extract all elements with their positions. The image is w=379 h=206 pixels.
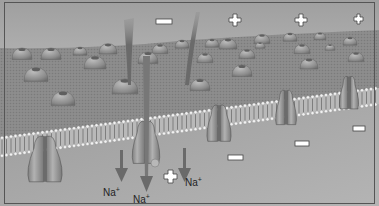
phospholipid-head — [162, 115, 165, 118]
phospholipid-head — [72, 127, 75, 130]
phospholipid-head — [194, 128, 197, 131]
phospholipid-head — [234, 105, 237, 108]
phospholipid-head — [270, 117, 273, 120]
phospholipid-head — [59, 146, 62, 149]
membrane-diagram: Na+ Na+ Na+ — [0, 0, 379, 206]
minus-marker — [295, 141, 309, 146]
phospholipid-head — [198, 127, 201, 130]
phospholipid-head — [77, 126, 80, 129]
phospholipid-head — [315, 111, 318, 114]
phospholipid-head — [189, 111, 192, 114]
phospholipid-head — [261, 102, 264, 105]
phospholipid-head — [261, 118, 264, 121]
phospholipid-head — [72, 144, 75, 147]
phospholipid-head — [14, 134, 17, 137]
phospholipid-head — [23, 151, 26, 154]
phospholipid-head — [176, 113, 179, 116]
phospholipid-head — [230, 106, 233, 109]
phospholipid-head — [68, 127, 71, 130]
surface-protein-dome — [255, 43, 265, 49]
phospholipid-head — [18, 134, 21, 137]
phospholipid-head — [158, 133, 161, 136]
minus-marker — [228, 155, 243, 160]
phospholipid-head — [243, 121, 246, 124]
phospholipid-head — [122, 120, 125, 123]
phospholipid-head — [185, 129, 188, 132]
phospholipid-head — [135, 118, 138, 121]
phospholipid-head — [32, 132, 35, 135]
phospholipid-head — [203, 109, 206, 112]
phospholipid-head — [50, 130, 53, 133]
minus-marker — [156, 19, 172, 24]
phospholipid-head — [171, 131, 174, 134]
phospholipid-head — [108, 139, 111, 142]
phospholipid-head — [90, 142, 93, 145]
phospholipid-head — [14, 152, 17, 155]
phospholipid-head — [158, 115, 161, 118]
phospholipid-head — [189, 128, 192, 131]
phospholipid-head — [171, 114, 174, 117]
phospholipid-head — [63, 145, 66, 148]
phospholipid-head — [63, 128, 66, 131]
phospholipid-head — [248, 120, 251, 123]
phospholipid-head — [329, 93, 332, 96]
phospholipid-head — [252, 103, 255, 106]
phospholipid-head — [185, 112, 188, 115]
phospholipid-head — [131, 119, 134, 122]
phospholipid-head — [9, 135, 12, 138]
phospholipid-head — [95, 124, 98, 127]
phospholipid-head — [252, 120, 255, 123]
phospholipid-head — [122, 137, 125, 140]
phospholipid-head — [99, 123, 102, 126]
phospholipid-head — [131, 136, 134, 139]
phospholipid-head — [302, 113, 305, 116]
phospholipid-head — [54, 129, 57, 132]
phospholipid-head — [360, 105, 363, 108]
phospholipid-head — [5, 136, 8, 139]
phospholipid-head — [266, 118, 269, 121]
phospholipid-head — [27, 150, 30, 153]
phospholipid-head — [9, 153, 12, 156]
ion-particle — [151, 159, 159, 167]
phospholipid-head — [293, 98, 296, 101]
phospholipid-head — [266, 101, 269, 104]
phospholipid-head — [365, 104, 368, 107]
phospholipid-head — [311, 112, 314, 115]
phospholipid-head — [180, 112, 183, 115]
phospholipid-head — [230, 123, 233, 126]
phospholipid-head — [194, 111, 197, 114]
phospholipid-head — [36, 131, 39, 134]
phospholipid-head — [99, 141, 102, 144]
phospholipid-head — [81, 125, 84, 128]
phospholipid-head — [207, 109, 210, 112]
phospholipid-head — [167, 131, 170, 134]
minus-marker — [353, 126, 365, 131]
phospholipid-head — [117, 121, 120, 124]
phospholipid-head — [167, 114, 170, 117]
phospholipid-head — [198, 110, 201, 113]
phospholipid-head — [239, 121, 242, 124]
phospholipid-head — [297, 97, 300, 100]
phospholipid-head — [149, 117, 152, 120]
phospholipid-head — [86, 142, 89, 145]
phospholipid-head — [18, 152, 21, 155]
phospholipid-head — [203, 126, 206, 129]
phospholipid-head — [239, 105, 242, 108]
phospholipid-head — [306, 96, 309, 99]
phospholipid-head — [365, 88, 368, 91]
phospholipid-head — [41, 131, 44, 134]
phospholipid-head — [234, 122, 237, 125]
phospholipid-head — [243, 104, 246, 107]
phospholipid-head — [176, 130, 179, 133]
phospholipid-head — [162, 132, 165, 135]
phospholipid-head — [257, 102, 260, 105]
phospholipid-head — [113, 121, 116, 124]
diagram-canvas: Na+ Na+ Na+ — [0, 0, 379, 206]
phospholipid-head — [360, 89, 363, 92]
phospholipid-head — [324, 110, 327, 113]
phospholipid-head — [59, 128, 62, 131]
phospholipid-head — [23, 133, 26, 136]
phospholipid-head — [27, 133, 30, 136]
phospholipid-head — [311, 95, 314, 98]
phospholipid-head — [95, 141, 98, 144]
